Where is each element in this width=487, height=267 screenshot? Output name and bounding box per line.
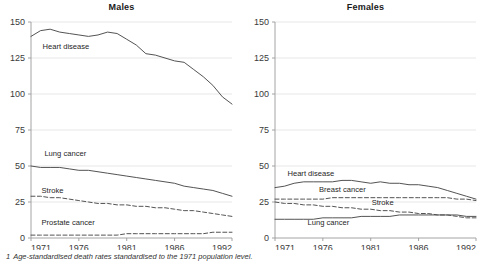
series-line	[31, 29, 232, 104]
chart-panel-females: Females 02550751001251501971197619811986…	[244, 0, 487, 250]
y-axis-tick-label: 25	[259, 197, 269, 207]
x-axis-tick-label: 1981	[117, 243, 137, 251]
y-axis-tick-label: 100	[254, 89, 269, 99]
series-label: Stroke	[372, 198, 394, 207]
y-axis-tick-label: 25	[15, 197, 25, 207]
series-label: Stroke	[42, 186, 64, 195]
series-label: Breast cancer	[319, 185, 366, 194]
y-axis-tick-label: 50	[259, 161, 269, 171]
series-label: Heart disease	[287, 169, 334, 178]
y-axis-tick-label: 50	[15, 161, 25, 171]
x-axis-tick-label: 1971	[275, 243, 295, 251]
y-axis-tick-label: 150	[10, 17, 25, 27]
x-axis-tick-label: 1986	[409, 243, 429, 251]
footnote-text: Age-standardised death rates standardise…	[13, 252, 252, 261]
x-axis-tick-label: 1992	[456, 243, 476, 251]
series-label: Lung cancer	[44, 149, 86, 158]
series-line	[31, 196, 232, 216]
series-label: Prostate cancer	[42, 218, 96, 227]
plot-area-females: 025507510012515019711976198119861992Hear…	[244, 0, 487, 250]
y-axis-tick-label: 0	[20, 233, 25, 243]
footnote: 1Age-standardised death rates standardis…	[6, 252, 253, 261]
y-axis-tick-label: 75	[15, 125, 25, 135]
series-line	[275, 180, 476, 199]
footnote-marker: 1	[6, 252, 10, 261]
figure-root: Males 0255075100125150197119761981198619…	[0, 0, 487, 267]
x-axis-tick-label: 1986	[165, 243, 185, 251]
y-axis-tick-label: 100	[10, 89, 25, 99]
series-label: Heart disease	[42, 42, 89, 51]
y-axis-tick-label: 125	[10, 53, 25, 63]
y-axis-tick-label: 75	[259, 125, 269, 135]
series-line	[275, 215, 476, 219]
y-axis-tick-label: 150	[254, 17, 269, 27]
x-axis-tick-label: 1981	[361, 243, 381, 251]
y-axis-tick-label: 125	[254, 53, 269, 63]
series-line	[31, 232, 232, 235]
plot-area-males: 025507510012515019711976198119861992Hear…	[0, 0, 243, 250]
x-axis-tick-label: 1976	[313, 243, 333, 251]
x-axis-tick-label: 1971	[31, 243, 51, 251]
chart-panel-males: Males 0255075100125150197119761981198619…	[0, 0, 243, 250]
y-axis-tick-label: 0	[264, 233, 269, 243]
x-axis-tick-label: 1992	[212, 243, 232, 251]
series-label: Lung cancer	[308, 218, 350, 227]
x-axis-tick-label: 1976	[69, 243, 89, 251]
